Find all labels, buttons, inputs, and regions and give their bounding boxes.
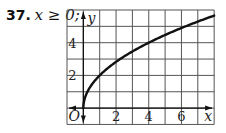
grid: [67, 10, 214, 124]
y-tick-label: 2: [68, 68, 76, 83]
x-tick-label: 2: [112, 109, 120, 124]
y-tick-label: 4: [68, 36, 76, 51]
graph: 24624xyO: [0, 0, 226, 133]
tick-labels: 24624xyO: [68, 10, 212, 124]
y-axis-label: y: [86, 10, 96, 26]
x-axis-label: x: [204, 108, 212, 124]
axes: [69, 12, 212, 122]
x-tick-label: 6: [177, 109, 185, 124]
x-tick-label: 4: [145, 109, 153, 124]
origin-label: O: [69, 108, 81, 124]
